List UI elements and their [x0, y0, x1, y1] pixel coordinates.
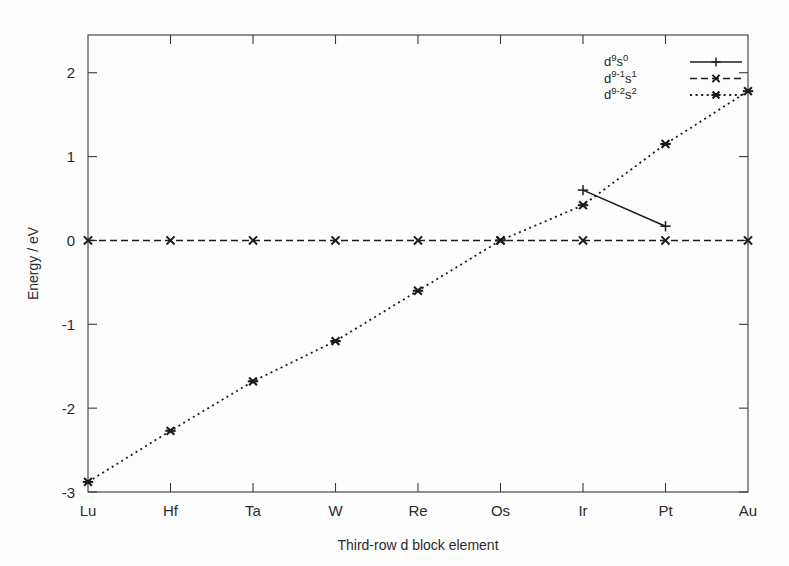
legend-entry-d9s0: d9s0	[604, 52, 742, 70]
data-point-marker-plus	[711, 57, 720, 66]
x-axis-title: Third-row d block element	[337, 537, 498, 553]
data-point-marker-star-square	[711, 92, 720, 99]
figure-page: 210-1-2-3 LuHfTaWReOsIrPtAu d9s0d9-1s1d9…	[0, 0, 789, 566]
data-point-marker-star-square	[165, 427, 175, 435]
x-tick-label-au: Au	[739, 502, 757, 519]
legend-entry-d9-2s2: d9-2s2	[604, 85, 742, 103]
data-point-marker-star-square	[495, 237, 505, 245]
y-tick-label: -3	[62, 484, 75, 501]
x-tick-label-ir: Ir	[578, 502, 587, 519]
data-point-marker-star-square	[660, 140, 670, 148]
x-tick-label-ta: Ta	[245, 502, 262, 519]
series-d9-2s2	[83, 87, 753, 486]
legend-entry-d9-1s1: d9-1s1	[604, 68, 742, 86]
data-point-marker-plus	[660, 221, 670, 231]
data-point-marker-star-square	[248, 377, 258, 385]
x-tick-label-w: W	[328, 502, 343, 519]
x-axis-ticks: LuHfTaWReOsIrPtAu	[80, 35, 758, 519]
series-d9s0	[578, 185, 671, 231]
legend-label: d9-1s1	[604, 68, 637, 86]
x-tick-label-pt: Pt	[658, 502, 673, 519]
y-tick-label: 1	[67, 148, 75, 165]
energy-line-chart: 210-1-2-3 LuHfTaWReOsIrPtAu d9s0d9-1s1d9…	[0, 0, 789, 566]
x-tick-label-re: Re	[408, 502, 427, 519]
data-point-marker-star-square	[413, 287, 423, 295]
legend: d9s0d9-1s1d9-2s2	[604, 52, 742, 103]
x-tick-label-hf: Hf	[163, 502, 179, 519]
legend-label: d9-2s2	[604, 85, 637, 103]
series-d9-1s1	[84, 236, 752, 244]
y-tick-label: -1	[62, 316, 75, 333]
y-tick-label: 0	[67, 232, 75, 249]
series-layer	[83, 87, 753, 486]
x-tick-label-lu: Lu	[80, 502, 97, 519]
y-tick-label: -2	[62, 400, 75, 417]
y-tick-label: 2	[67, 64, 75, 81]
plot-frame	[88, 35, 748, 492]
data-point-marker-plus	[578, 185, 588, 195]
data-point-marker-star-square	[330, 337, 340, 345]
legend-label: d9s0	[604, 52, 628, 70]
x-tick-label-os: Os	[491, 502, 510, 519]
y-axis-title: Energy / eV	[25, 226, 41, 300]
data-point-marker-star-square	[578, 201, 588, 209]
